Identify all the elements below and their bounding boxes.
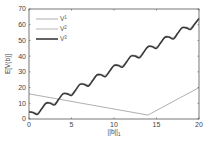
y-tick-label: 40 <box>18 53 26 60</box>
plot-area <box>29 9 199 119</box>
line-chart: 05101520 010203040506070 ||b||1 E[V(b)] … <box>0 0 211 142</box>
x-tick-label: 10 <box>110 121 118 128</box>
x-axis-label-text: ||b|| <box>108 128 119 136</box>
y-tick-label: 20 <box>18 84 26 91</box>
x-tick-label: 5 <box>70 121 74 128</box>
y-tick-label: 0 <box>22 115 26 122</box>
x-axis-label: ||b||1 <box>108 128 121 137</box>
y-tick-label: 30 <box>18 68 26 75</box>
y-tick-label: 70 <box>18 5 26 12</box>
x-tick-label: 20 <box>195 121 203 128</box>
y-tick-label: 60 <box>18 21 26 28</box>
y-tick-label: 50 <box>18 37 26 44</box>
x-tick-label: 15 <box>153 121 161 128</box>
y-axis-label: E[V(b)] <box>4 54 12 74</box>
x-axis-label-subscript: 1 <box>118 132 121 137</box>
y-tick-label: 10 <box>18 100 26 107</box>
x-tick-label: 0 <box>27 121 31 128</box>
